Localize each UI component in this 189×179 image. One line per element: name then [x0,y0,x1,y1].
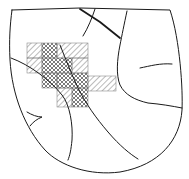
east-stream [140,64,172,68]
hatched-cell-single [88,76,116,91]
west-inlet [27,112,42,126]
hatched-cell-single [57,43,88,58]
hatched-cell-single [57,88,72,107]
map-canvas [0,0,189,179]
road-diagonal [80,9,120,38]
hatched-cell-cross [42,73,57,88]
hatched-cell-cross [42,58,72,73]
hatched-cell-single [72,58,88,73]
hatched-cell-cross [42,43,57,58]
hatched-cell-single [27,43,42,58]
east-district-boundary [117,11,182,108]
